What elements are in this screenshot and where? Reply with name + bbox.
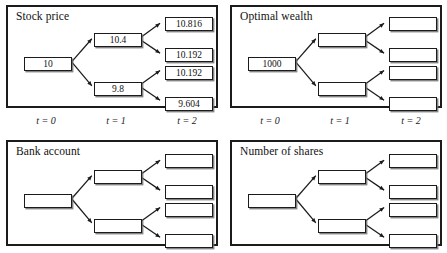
time-label-t1-optimal-wealth: t = 1 [330,114,350,127]
edge-t0-t1-1 [72,199,92,223]
node-optimal-wealth-t0-0[interactable]: 1000 [248,57,296,71]
panel-optimal-wealth: Optimal wealth1000 [230,5,442,108]
node-stock-price-t0-0[interactable]: 10 [24,57,72,71]
time-label-t2-optimal-wealth: t = 2 [401,114,421,127]
node-stock-price-t2-0[interactable]: 10.816 [165,17,213,31]
node-optimal-wealth-t1-0[interactable] [318,33,366,47]
time-label-t1-stock-price: t = 1 [106,114,126,127]
edge-t0-t1-1 [72,62,92,86]
time-label-t2-stock-price: t = 2 [177,114,197,127]
edge-t0-t1-1 [296,199,316,223]
node-stock-price-t1-0-value: 10.4 [110,35,127,45]
node-stock-price-t2-3-value: 9.604 [178,99,199,109]
node-bank-account-t2-3[interactable] [165,234,213,248]
node-number-of-shares-t1-0[interactable] [318,170,366,184]
node-stock-price-t1-0[interactable]: 10.4 [94,33,142,47]
node-optimal-wealth-t2-2[interactable] [389,66,437,80]
node-number-of-shares-t1-1[interactable] [318,219,366,233]
node-optimal-wealth-t2-3[interactable] [389,97,437,111]
node-number-of-shares-t2-2[interactable] [389,203,437,217]
node-bank-account-t1-0[interactable] [94,170,142,184]
edge-t0-t1-0 [296,39,316,62]
node-stock-price-t2-0-value: 10.816 [176,19,202,29]
panel-stock-price: Stock price1010.49.810.81610.19210.1929.… [6,5,218,108]
node-bank-account-t2-1[interactable] [165,185,213,199]
panel-number-of-shares: Number of shares [230,140,442,246]
node-stock-price-t1-1[interactable]: 9.8 [94,82,142,96]
node-stock-price-t2-1[interactable]: 10.192 [165,48,213,62]
edge-t0-t1-0 [72,39,92,62]
node-optimal-wealth-t0-0-value: 1000 [263,59,282,69]
node-bank-account-t2-0[interactable] [165,154,213,168]
time-label-t0-stock-price: t = 0 [36,114,56,127]
node-stock-price-t0-0-value: 10 [43,59,53,69]
node-stock-price-t1-1-value: 9.8 [112,84,124,94]
node-bank-account-t1-1[interactable] [94,219,142,233]
node-optimal-wealth-t1-1[interactable] [318,82,366,96]
time-label-t0-optimal-wealth: t = 0 [260,114,280,127]
node-bank-account-t2-2[interactable] [165,203,213,217]
node-stock-price-t2-3[interactable]: 9.604 [165,97,213,111]
binomial-tree-figure: Stock price1010.49.810.81610.19210.1929.… [0,0,447,253]
node-stock-price-t2-2-value: 10.192 [176,68,202,78]
node-bank-account-t0-0[interactable] [24,194,72,208]
time-axis-stock-price: t = 0t = 1t = 2 [6,114,218,128]
node-number-of-shares-t2-1[interactable] [389,185,437,199]
node-stock-price-t2-1-value: 10.192 [176,50,202,60]
edge-t0-t1-0 [72,176,92,199]
node-stock-price-t2-2[interactable]: 10.192 [165,66,213,80]
time-axis-optimal-wealth: t = 0t = 1t = 2 [230,114,442,128]
node-number-of-shares-t0-0[interactable] [248,194,296,208]
node-number-of-shares-t2-3[interactable] [389,234,437,248]
node-number-of-shares-t2-0[interactable] [389,154,437,168]
panel-bank-account: Bank account [6,140,218,246]
node-optimal-wealth-t2-0[interactable] [389,17,437,31]
edge-t0-t1-1 [296,62,316,86]
node-optimal-wealth-t2-1[interactable] [389,48,437,62]
edge-t0-t1-0 [296,176,316,199]
